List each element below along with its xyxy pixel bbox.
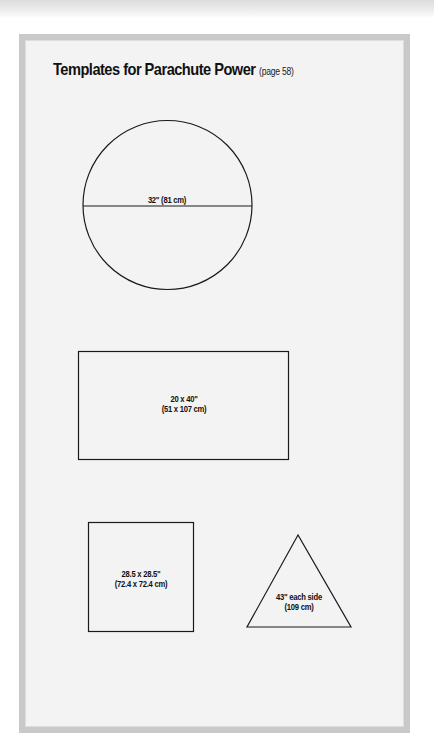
triangle-label: 43" each side (109 cm) [276, 592, 322, 612]
square-label: 28.5 x 28.5" (72.4 x 72.4 cm) [115, 569, 167, 589]
rectangle-label: 20 x 40" (51 x 107 cm) [162, 394, 207, 414]
circle-label: 32" (81 cm) [148, 195, 186, 205]
triangle-template [247, 535, 351, 627]
template-shapes [0, 0, 434, 750]
circle-template [83, 121, 252, 290]
